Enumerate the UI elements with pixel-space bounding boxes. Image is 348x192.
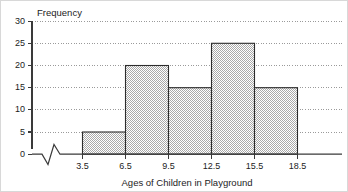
bar-15.5-18.5 xyxy=(255,88,298,155)
x-tick-label-3.5: 3.5 xyxy=(76,161,89,171)
bar-3.5-6.5 xyxy=(83,132,126,154)
y-tick-label-5: 5 xyxy=(20,127,25,137)
x-axis-tick-labels: 3.5 6.5 9.5 12.5 15.5 18.5 xyxy=(76,161,306,171)
y-tick-label-10: 10 xyxy=(15,104,25,114)
y-tick-label-15: 15 xyxy=(15,82,25,92)
histogram-figure: 30 25 20 15 10 5 0 3.5 6.5 9.5 12.5 15.5… xyxy=(0,0,348,192)
x-tick-label-12.5: 12.5 xyxy=(203,161,221,171)
bar-12.5-15.5 xyxy=(212,43,255,154)
x-axis-title: Ages of Children in Playground xyxy=(122,177,253,188)
y-tick-label-20: 20 xyxy=(15,60,25,70)
x-tick-label-15.5: 15.5 xyxy=(246,161,264,171)
x-tick-label-6.5: 6.5 xyxy=(119,161,132,171)
histogram-bars xyxy=(83,43,298,154)
bar-6.5-9.5 xyxy=(126,66,169,155)
y-tick-label-30: 30 xyxy=(15,16,25,26)
bar-9.5-12.5 xyxy=(169,88,212,155)
x-tick-label-18.5: 18.5 xyxy=(289,161,307,171)
y-tick-label-0: 0 xyxy=(20,149,25,159)
histogram-chart: 30 25 20 15 10 5 0 3.5 6.5 9.5 12.5 15.5… xyxy=(1,1,348,192)
y-axis-title: Frequency xyxy=(37,7,82,18)
x-axis-ticks xyxy=(83,154,298,159)
y-tick-label-25: 25 xyxy=(15,38,25,48)
y-axis-tick-labels: 30 25 20 15 10 5 0 xyxy=(15,16,25,159)
x-tick-label-9.5: 9.5 xyxy=(162,161,175,171)
